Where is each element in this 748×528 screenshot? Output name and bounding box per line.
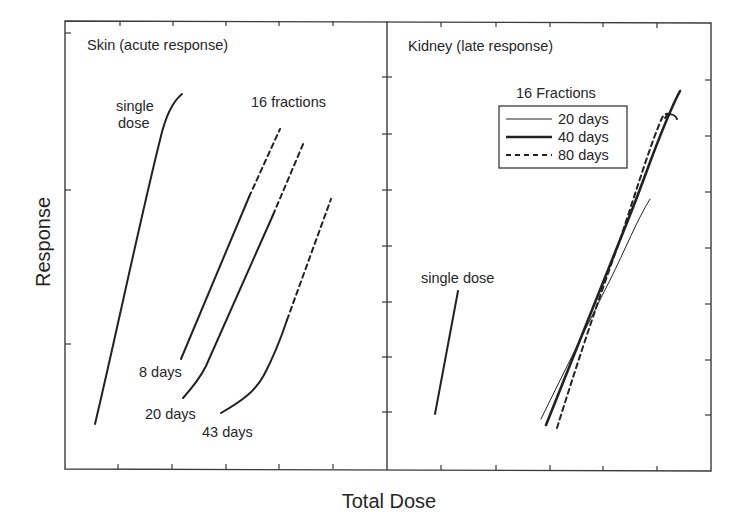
kidney-single-dose-curve — [435, 291, 458, 414]
skin-8days-curve — [181, 197, 249, 359]
skin-curves — [95, 94, 331, 424]
kidney-20days-curve — [541, 199, 650, 419]
skin-8days-extrapolation — [249, 129, 280, 197]
skin-single-label-line2: dose — [118, 115, 149, 131]
skin-43days-extrapolation — [287, 199, 331, 320]
legend-title: 16 Fractions — [516, 85, 596, 101]
kidney-single-dose-label: single dose — [421, 270, 494, 286]
skin-20days-curve — [183, 215, 273, 398]
figure-canvas: 16 Fractions 20 days 40 days 80 days Ski… — [0, 0, 748, 528]
x-axis-label: Total Dose — [342, 490, 437, 512]
kidney-panel-title: Kidney (late response) — [408, 38, 553, 54]
legend-entry-40days: 40 days — [558, 129, 609, 145]
skin-16-fractions-label: 16 fractions — [251, 94, 326, 110]
skin-43days-curve — [221, 320, 287, 413]
legend-entry-20days: 20 days — [558, 111, 609, 127]
skin-20days-label: 20 days — [145, 406, 196, 422]
legend-entry-80days: 80 days — [558, 147, 609, 163]
skin-single-label-line1: single — [116, 98, 154, 114]
skin-panel-title: Skin (acute response) — [87, 37, 228, 53]
axis-ticks — [65, 21, 711, 471]
skin-8days-label: 8 days — [139, 364, 182, 380]
skin-20days-extrapolation — [273, 142, 304, 215]
skin-43days-label: 43 days — [202, 424, 253, 440]
legend: 16 Fractions 20 days 40 days 80 days — [499, 85, 627, 168]
y-axis-label: Response — [32, 197, 54, 287]
